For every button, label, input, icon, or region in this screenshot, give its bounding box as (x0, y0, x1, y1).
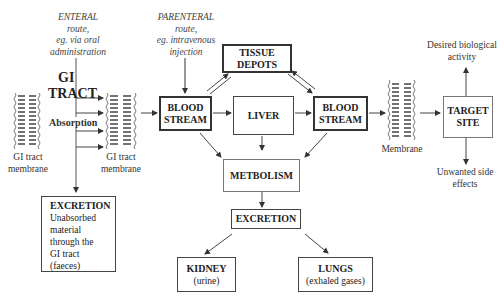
blood-stream-box-1: BLOOD STREAM (159, 96, 212, 131)
membrane-left-label: GI tract membrane (2, 152, 54, 175)
box-sublabel: through the (50, 236, 94, 248)
tissue-depots-box: TISSUE DEPOTS (222, 44, 292, 73)
membrane-label-line: membrane (95, 164, 147, 176)
excretion-box: EXCRETION (231, 209, 301, 229)
parenteral-line: eg. intravenous (146, 35, 226, 47)
membrane-label-line: GI tract (2, 152, 54, 164)
box-label: LIVER (248, 110, 280, 122)
box-sublabel: (faeces) (50, 260, 80, 272)
blood-stream-box-2: BLOOD STREAM (313, 96, 368, 131)
desired-line: activity (420, 52, 504, 64)
membrane-left-icon (14, 93, 40, 149)
membrane-middle-label: GI tract membrane (95, 152, 147, 175)
enteral-title: ENTERAL (38, 12, 118, 24)
lungs-box: LUNGS (exhaled gases) (298, 257, 373, 292)
box-label: SITE (457, 117, 480, 129)
box-label: TARGET (447, 105, 489, 117)
box-label: TISSUE (239, 47, 275, 59)
gi-tract-line2: TRACT (48, 86, 98, 102)
desired-activity-label: Desired biological activity (420, 40, 504, 63)
gi-tract-line1: GI (48, 70, 98, 86)
membrane-right-icon (388, 80, 415, 140)
enteral-line: route, (38, 24, 118, 36)
membrane-label-line: GI tract (95, 152, 147, 164)
parenteral-route-label: PARENTERAL route, eg. intravenous inject… (146, 12, 226, 58)
box-label: BLOOD (322, 102, 358, 114)
gi-excretion-box: EXCRETION Unabsorbed material through th… (41, 196, 116, 272)
box-label: METBOLISM (230, 170, 293, 182)
box-sublabel: (urine) (194, 275, 220, 287)
box-sublabel: (exhaled gases) (306, 275, 365, 287)
unwanted-side-effects-label: Unwanted side effects (425, 167, 504, 190)
enteral-line: administration (38, 47, 118, 59)
box-sublabel: Unabsorbed (50, 212, 96, 224)
kidney-box: KIDNEY (urine) (177, 257, 236, 292)
box-label: LUNGS (318, 263, 352, 275)
parenteral-title: PARENTERAL (146, 12, 226, 24)
unwanted-line: effects (425, 179, 504, 191)
enteral-route-label: ENTERAL route, eg. via oral administrati… (38, 12, 118, 58)
enteral-line: eg. via oral (38, 35, 118, 47)
gi-tract-label: GI TRACT (48, 70, 98, 102)
unwanted-line: Unwanted side (425, 167, 504, 179)
box-label: KIDNEY (186, 263, 226, 275)
membrane-right-label: Membrane (376, 144, 428, 156)
target-site-box: TARGET SITE (443, 96, 493, 138)
box-sublabel: material (50, 224, 81, 236)
parenteral-line: route, (146, 24, 226, 36)
box-label: BLOOD (167, 102, 203, 114)
box-label: EXCRETION (50, 200, 111, 212)
absorption-label: Absorption (48, 117, 98, 128)
box-label: DEPOTS (237, 59, 277, 71)
metabolism-box: METBOLISM (223, 159, 300, 192)
box-label: EXCRETION (236, 213, 297, 225)
parenteral-line: injection (146, 47, 226, 59)
box-sublabel: GI tract (50, 248, 79, 260)
membrane-label-line: membrane (2, 164, 54, 176)
box-label: STREAM (164, 114, 207, 126)
box-label: STREAM (319, 114, 362, 126)
desired-line: Desired biological (420, 40, 504, 52)
liver-box: LIVER (233, 96, 294, 135)
